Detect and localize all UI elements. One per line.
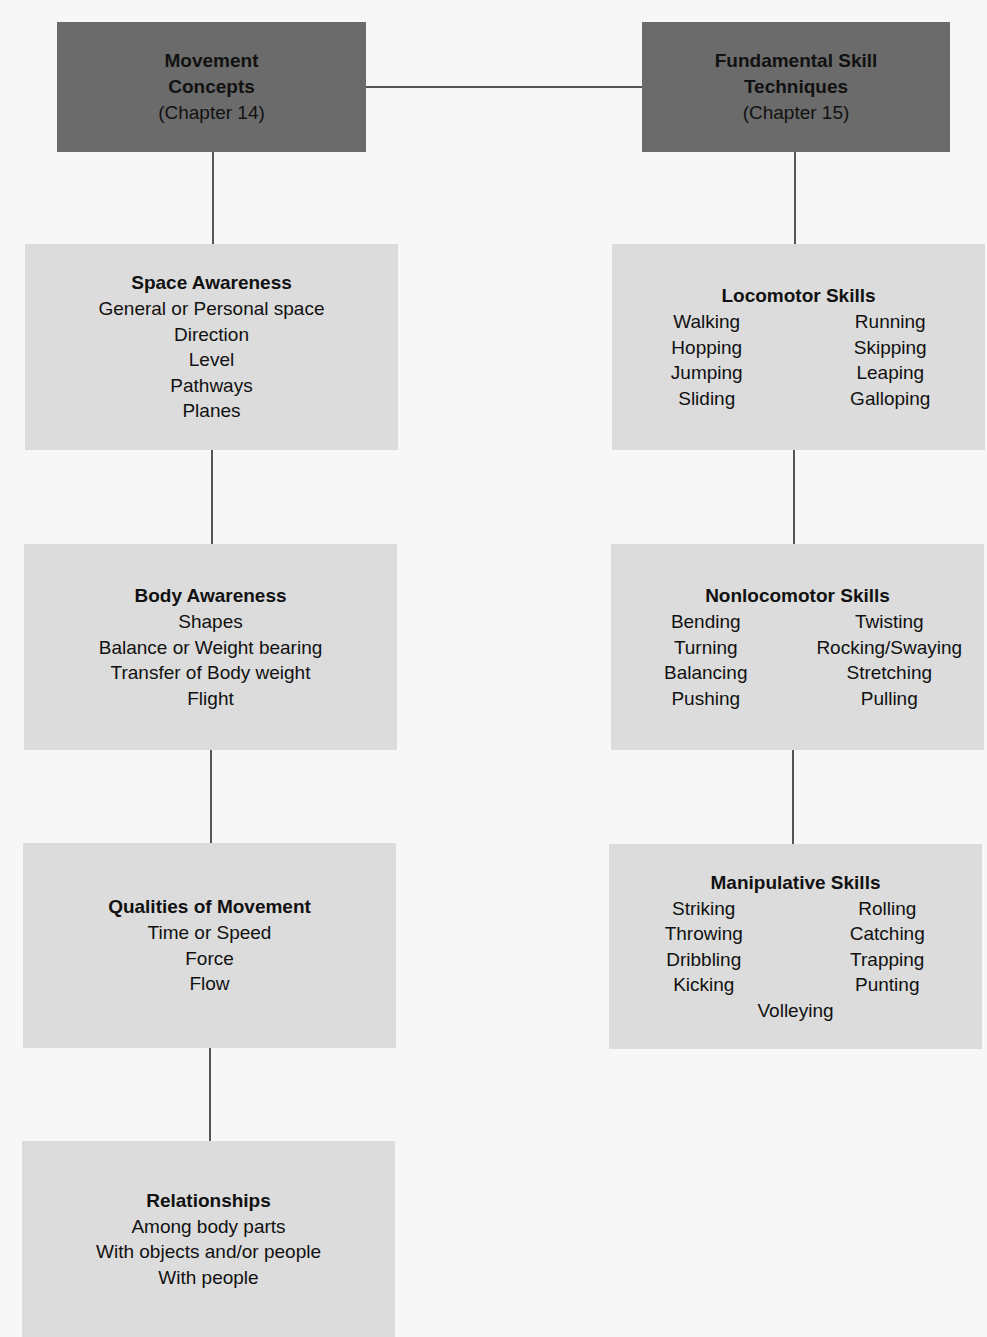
- connector-right-2: [793, 450, 795, 544]
- header-title: Concepts: [168, 74, 255, 100]
- skills-grid: Bending Twisting Turning Rocking/Swaying…: [611, 609, 984, 711]
- list-item: Pushing: [619, 686, 793, 712]
- box-title: Manipulative Skills: [711, 870, 881, 896]
- list-item: Planes: [182, 398, 240, 424]
- connector-headers: [366, 86, 642, 88]
- header-title: Fundamental Skill: [715, 48, 878, 74]
- list-item: Shapes: [178, 609, 242, 635]
- connector-left-3: [210, 750, 212, 843]
- connector-right-1: [794, 152, 796, 244]
- list-item: Rolling: [801, 896, 975, 922]
- box-locomotor-skills: Locomotor Skills Walking Running Hopping…: [612, 244, 985, 450]
- box-space-awareness: Space Awareness General or Personal spac…: [25, 244, 398, 450]
- list-item: Stretching: [803, 660, 977, 686]
- connector-left-4: [209, 1048, 211, 1141]
- header-movement-concepts: Movement Concepts (Chapter 14): [57, 22, 366, 152]
- list-item: With objects and/or people: [96, 1239, 321, 1265]
- list-item: Pulling: [803, 686, 977, 712]
- list-item: Balancing: [619, 660, 793, 686]
- list-item: Catching: [801, 921, 975, 947]
- list-item: Force: [185, 946, 234, 972]
- list-item: Jumping: [620, 360, 794, 386]
- list-item: Throwing: [617, 921, 791, 947]
- box-title: Nonlocomotor Skills: [705, 583, 890, 609]
- list-item: Balance or Weight bearing: [99, 635, 323, 661]
- skills-grid: Striking Rolling Throwing Catching Dribb…: [609, 896, 982, 998]
- box-nonlocomotor-skills: Nonlocomotor Skills Bending Twisting Tur…: [611, 544, 984, 750]
- header-title: Techniques: [744, 74, 848, 100]
- list-item: Rocking/Swaying: [803, 635, 977, 661]
- list-item: Running: [804, 309, 978, 335]
- list-item: Among body parts: [131, 1214, 285, 1240]
- box-title: Qualities of Movement: [108, 894, 311, 920]
- list-item: Leaping: [804, 360, 978, 386]
- list-item: With people: [158, 1265, 258, 1291]
- list-item: Kicking: [617, 972, 791, 998]
- connector-left-2: [211, 450, 213, 544]
- header-subtitle: (Chapter 14): [158, 100, 265, 126]
- list-item: Time or Speed: [148, 920, 272, 946]
- box-title: Body Awareness: [134, 583, 286, 609]
- list-item: Galloping: [804, 386, 978, 412]
- list-item: Bending: [619, 609, 793, 635]
- list-item: Flow: [189, 971, 229, 997]
- list-item: Trapping: [801, 947, 975, 973]
- connector-left-1: [212, 152, 214, 244]
- box-title: Locomotor Skills: [721, 283, 875, 309]
- list-item: Striking: [617, 896, 791, 922]
- header-fundamental-skill-techniques: Fundamental Skill Techniques (Chapter 15…: [642, 22, 950, 152]
- box-qualities-of-movement: Qualities of Movement Time or Speed Forc…: [23, 843, 396, 1048]
- list-item: Direction: [174, 322, 249, 348]
- list-item: Skipping: [804, 335, 978, 361]
- box-relationships: Relationships Among body parts With obje…: [22, 1141, 395, 1337]
- list-item: Transfer of Body weight: [111, 660, 311, 686]
- header-subtitle: (Chapter 15): [743, 100, 850, 126]
- skills-grid: Walking Running Hopping Skipping Jumping…: [612, 309, 985, 411]
- connector-right-3: [792, 750, 794, 844]
- box-manipulative-skills: Manipulative Skills Striking Rolling Thr…: [609, 844, 982, 1049]
- list-item: Pathways: [170, 373, 252, 399]
- list-item: Sliding: [620, 386, 794, 412]
- box-body-awareness: Body Awareness Shapes Balance or Weight …: [24, 544, 397, 750]
- list-item: Flight: [187, 686, 233, 712]
- list-item: Volleying: [757, 998, 833, 1024]
- list-item: Twisting: [803, 609, 977, 635]
- list-item: General or Personal space: [98, 296, 324, 322]
- list-item: Level: [189, 347, 234, 373]
- list-item: Walking: [620, 309, 794, 335]
- box-title: Relationships: [146, 1188, 271, 1214]
- list-item: Punting: [801, 972, 975, 998]
- list-item: Hopping: [620, 335, 794, 361]
- box-title: Space Awareness: [131, 270, 292, 296]
- list-item: Dribbling: [617, 947, 791, 973]
- header-title: Movement: [165, 48, 259, 74]
- list-item: Turning: [619, 635, 793, 661]
